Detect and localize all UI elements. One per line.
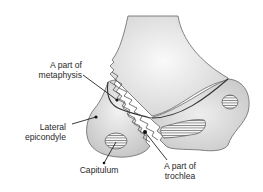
label-trochlea-line2: trochlea: [150, 171, 210, 181]
label-lateral-epicondyle-line2: epicondyle: [10, 132, 66, 142]
label-lateral-epicondyle-line1: Lateral: [10, 122, 66, 132]
dot-metaphysis: [115, 98, 118, 101]
label-capitulum: Capitulum: [66, 165, 132, 175]
label-metaphysis-line1: A part of: [22, 60, 82, 70]
dot-lateral-epicondyle: [94, 115, 97, 118]
label-trochlea-line1: A part of: [150, 161, 210, 171]
dot-capitulum: [103, 162, 106, 165]
humerus-illustration: [0, 0, 263, 192]
label-trochlea: A part of trochlea: [150, 161, 210, 181]
capitulum-surface: [105, 133, 127, 149]
fracture-diagram: A part of metaphysis Lateral epicondyle …: [0, 0, 263, 192]
label-metaphysis: A part of metaphysis: [22, 60, 82, 80]
medial-epicondyle-surface: [222, 95, 238, 109]
label-lateral-epicondyle: Lateral epicondyle: [10, 122, 66, 142]
dot-trochlea: [143, 130, 147, 134]
label-capitulum-text: Capitulum: [66, 165, 132, 175]
label-metaphysis-line2: metaphysis: [22, 70, 82, 80]
